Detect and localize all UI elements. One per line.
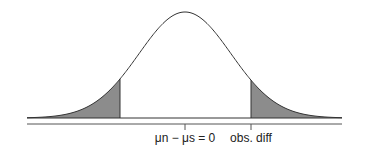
obs-diff-label: obs. diff bbox=[230, 131, 272, 145]
density-curve bbox=[27, 12, 342, 118]
center-label: μn − μs = 0 bbox=[155, 131, 216, 145]
